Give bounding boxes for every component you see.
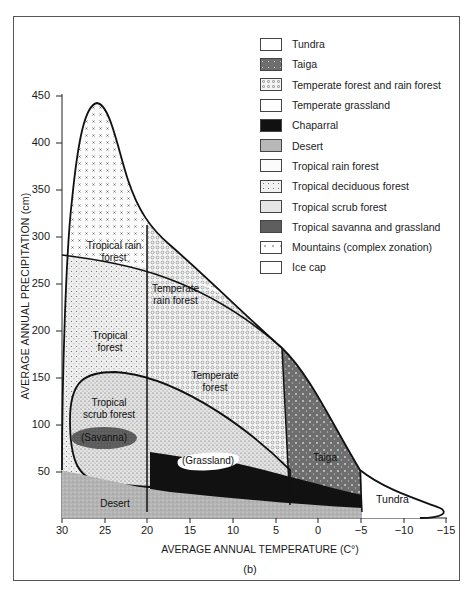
x-tick-minus5: −5 <box>346 524 376 536</box>
label-temperate-forest: Temperate forest <box>185 370 245 394</box>
y-tick-100: 100 <box>22 418 50 430</box>
y-axis-label: AVERAGE ANNUAL PRECIPITATION (cm) <box>19 186 31 406</box>
x-axis <box>62 518 447 523</box>
x-tick-15: 15 <box>175 524 205 536</box>
swatch-tundra-icon <box>260 38 282 51</box>
swatch-temperate-forest-icon <box>260 78 282 91</box>
legend-item-chaparral: Chaparral <box>260 115 441 135</box>
label-tropical-forest: Tropical forest <box>85 330 135 354</box>
x-tick-minus10: −10 <box>389 524 419 536</box>
legend-item-desert: Desert <box>260 135 441 155</box>
label-desert: Desert <box>90 498 140 510</box>
y-tick-400: 400 <box>22 136 50 148</box>
x-tick-10: 10 <box>218 524 248 536</box>
swatch-tropical-savanna-icon <box>260 220 282 233</box>
x-tick-30: 30 <box>47 524 77 536</box>
legend-item-tropical-deciduous-forest: Tropical deciduous forest <box>260 176 441 196</box>
legend-item-taiga: Taiga <box>260 54 441 74</box>
legend-item-temperate-forest: Temperate forest and rain forest <box>260 75 441 95</box>
label-tropical-scrub-forest: Tropical scrub forest <box>78 397 140 421</box>
swatch-desert-icon <box>260 139 282 152</box>
label-grassland: (Grassland) <box>176 455 240 467</box>
swatch-ice-cap-icon <box>260 261 282 274</box>
legend-item-ice-cap: Ice cap <box>260 257 441 277</box>
legend-item-mountains: Mountains (complex zonation) <box>260 237 441 257</box>
x-tick-20: 20 <box>132 524 162 536</box>
y-axis <box>56 94 62 518</box>
swatch-mountains-icon <box>260 241 282 254</box>
legend-item-tropical-savanna: Tropical savanna and grassland <box>260 217 441 237</box>
x-tick-25: 25 <box>90 524 120 536</box>
label-temperate-rain-forest: Temperate rain forest <box>148 283 203 307</box>
swatch-tropical-scrub-forest-icon <box>260 200 282 213</box>
legend-item-temperate-grassland: Temperate grassland <box>260 95 441 115</box>
label-taiga: Taiga <box>305 452 345 464</box>
x-tick-5: 5 <box>261 524 291 536</box>
legend-item-tropical-scrub-forest: Tropical scrub forest <box>260 196 441 216</box>
x-tick-minus15: −15 <box>431 524 461 536</box>
label-savanna: (Savanna) <box>74 432 134 444</box>
legend: Tundra Taiga Temperate forest and rain f… <box>260 34 441 278</box>
swatch-taiga-icon <box>260 58 282 71</box>
swatch-temperate-grassland-icon <box>260 99 282 112</box>
y-tick-50: 50 <box>22 465 50 477</box>
x-axis-label: AVERAGE ANNUAL TEMPERATURE (C°) <box>120 543 400 555</box>
legend-item-tundra: Tundra <box>260 34 441 54</box>
swatch-chaparral-icon <box>260 119 282 132</box>
swatch-tropical-deciduous-forest-icon <box>260 180 282 193</box>
label-tropical-rain-forest: Tropical rain forest <box>84 240 144 264</box>
swatch-tropical-rain-forest-icon <box>260 159 282 172</box>
legend-item-tropical-rain-forest: Tropical rain forest <box>260 156 441 176</box>
label-tundra: Tundra <box>370 493 415 505</box>
figure-sublabel: (b) <box>200 563 300 575</box>
x-tick-0: 0 <box>303 524 333 536</box>
y-tick-450: 450 <box>22 89 50 101</box>
